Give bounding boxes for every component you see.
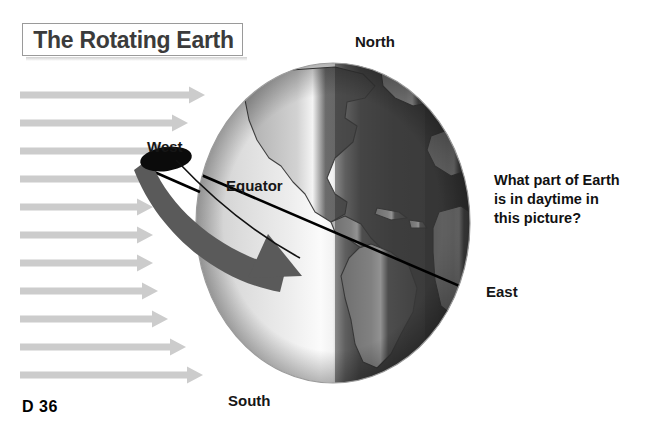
label-north: North [355, 33, 395, 50]
label-south: South [228, 392, 271, 409]
label-west: West [147, 138, 183, 155]
page-number: D 36 [22, 398, 58, 416]
textbook-figure-page: The Rotating Earth [0, 0, 645, 434]
question-line-3: this picture? [494, 209, 644, 228]
label-equator: Equator [226, 177, 283, 194]
question-line-1: What part of Earth [494, 171, 644, 190]
label-east: East [486, 283, 518, 300]
rotation-arrowhead [248, 234, 302, 278]
question-text: What part of Earth is in daytime in this… [494, 171, 644, 228]
question-line-2: is in daytime in [494, 190, 644, 209]
